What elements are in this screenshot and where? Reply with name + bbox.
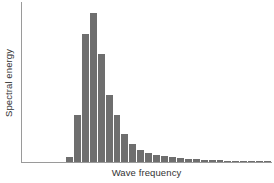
x-axis-label: Wave frequency — [21, 166, 272, 179]
y-axis-label: Spectral energy — [2, 3, 16, 163]
bar — [153, 155, 160, 162]
bar — [129, 144, 136, 162]
bar — [90, 13, 97, 162]
bar — [74, 115, 81, 162]
x-axis-line — [21, 162, 272, 163]
bar — [82, 34, 89, 162]
bar — [145, 153, 152, 162]
bar — [114, 115, 121, 162]
bar — [106, 95, 113, 162]
bar — [98, 54, 105, 162]
bar — [137, 150, 144, 162]
y-axis-line — [21, 2, 22, 163]
bar — [121, 134, 128, 162]
plot-area — [22, 2, 272, 162]
wave-spectrum-chart: Spectral energy Wave frequency — [0, 0, 274, 183]
